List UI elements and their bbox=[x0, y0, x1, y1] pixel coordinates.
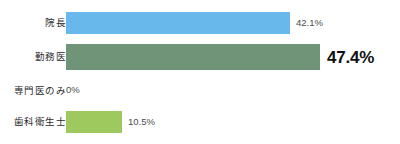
category-label-1: 勤務医 bbox=[0, 52, 66, 62]
chart-row: 専門医のみ 0% bbox=[0, 85, 400, 97]
category-label-3: 歯科衛生士 bbox=[0, 117, 66, 127]
category-label-0: 院長 bbox=[0, 18, 66, 28]
category-label-2: 専門医のみ bbox=[0, 86, 66, 96]
bar-area-3: 10.5% bbox=[66, 111, 155, 133]
bar-area-1: 47.4% bbox=[66, 44, 374, 70]
chart-row: 院長 42.1% bbox=[0, 12, 400, 34]
value-label-3: 10.5% bbox=[128, 117, 155, 127]
bar-3 bbox=[66, 111, 122, 133]
bar-area-0: 42.1% bbox=[66, 12, 323, 34]
chart-row: 勤務医 47.4% bbox=[0, 44, 400, 70]
chart-row: 歯科衛生士 10.5% bbox=[0, 111, 400, 133]
horizontal-bar-chart: 院長 42.1% 勤務医 47.4% 専門医のみ 0% 歯科衛生士 10.5% bbox=[0, 0, 400, 144]
value-label-2: 0% bbox=[66, 85, 80, 95]
value-label-1: 47.4% bbox=[327, 49, 374, 66]
bar-0 bbox=[66, 12, 290, 34]
bar-1 bbox=[66, 44, 320, 70]
value-label-0: 42.1% bbox=[296, 18, 323, 28]
bar-area-2: 0% bbox=[66, 85, 80, 95]
